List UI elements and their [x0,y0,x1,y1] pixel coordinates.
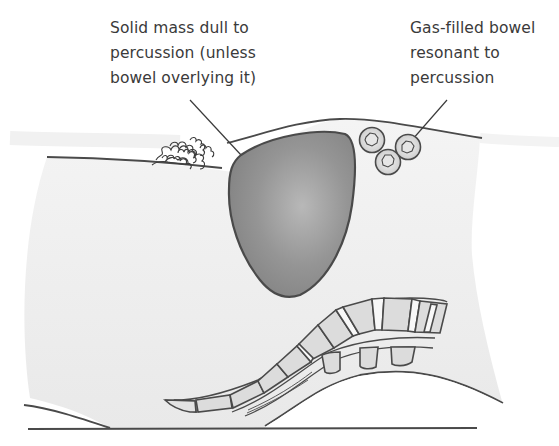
gas-bowel-label-line: resonant to [410,41,535,66]
bowel-loop [396,135,421,160]
gas-bowel-label-line: Gas-filled bowel [410,16,535,41]
solid-mass-label-line: percussion (unless [110,41,256,66]
gas-bowel-label: Gas-filled bowel resonant to percussion [410,16,535,91]
ground-line [28,428,477,429]
solid-mass-label-line: bowel overlying it) [110,66,256,91]
leader-line-mass [190,100,241,155]
bowel-loop [360,128,385,153]
percussion-diagram: Solid mass dull to percussion (unless bo… [0,0,559,446]
solid-mass-label-line: Solid mass dull to [110,16,256,41]
solid-mass-label: Solid mass dull to percussion (unless bo… [110,16,256,91]
gas-bowel-label-line: percussion [410,66,535,91]
